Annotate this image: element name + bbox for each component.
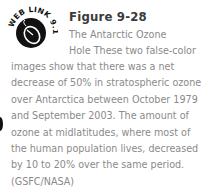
caption-top: The Antarctic Ozone Hole These two false…	[69, 27, 209, 60]
caption-line: and September 2003. The amount of	[11, 108, 209, 124]
web-link-mouse-icon: WEB LINK 9.10	[8, 2, 58, 50]
web-link-icon[interactable]: WEB LINK 9.10	[8, 2, 58, 50]
page-edge-mark	[0, 117, 3, 131]
caption-line: images show that there was a net	[11, 59, 209, 75]
caption-line: the human population lives, decreased	[11, 141, 209, 157]
caption-line: decrease of 50% in stratospheric ozone	[11, 75, 209, 91]
figure-number: Figure 9-28	[69, 9, 147, 24]
caption-line: (GSFC/NASA)	[11, 174, 209, 189]
caption-body: images show that there was a net decreas…	[11, 59, 209, 189]
caption-line: ozone at midlatitudes, where most of	[11, 125, 209, 141]
caption-line: The Antarctic Ozone	[69, 27, 209, 43]
caption-line: by 10 to 20% over the same period.	[11, 157, 209, 173]
caption-line: Hole These two false-color	[69, 43, 209, 59]
caption-line: over Antarctica between October 1979	[11, 92, 209, 108]
